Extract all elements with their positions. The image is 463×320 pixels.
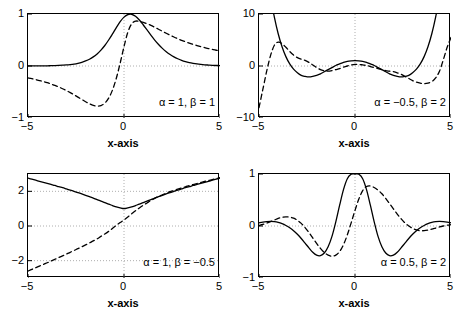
ytick-label: 0 (6, 60, 24, 71)
xtick-label: −5 (252, 281, 265, 292)
xtick-label: 5 (447, 121, 453, 132)
ytick-label: 10 (231, 8, 255, 19)
xtick-label: 5 (216, 281, 222, 292)
ytick-label: 1 (6, 8, 24, 19)
xaxis-title: x-axis (338, 138, 369, 149)
xtick-label: 5 (447, 281, 453, 292)
ytick-label: −2 (6, 255, 24, 266)
parameter-annotation: α = −0.5, β = 2 (330, 97, 446, 108)
panel-bottom-left: 2 0 −2 −5 0 5 x-axis α = 1, β = −0.5 (0, 160, 232, 320)
xaxis-title: x-axis (107, 138, 138, 149)
ytick-label: 0 (231, 60, 255, 71)
panel-bottom-right: 1 0 −1 −5 0 5 x-axis α = 0.5, β = 2 (232, 160, 463, 320)
parameter-annotation: α = 1, β = 1 (119, 97, 215, 108)
parameter-annotation: α = 1, β = −0.5 (99, 257, 215, 268)
xtick-label: −5 (252, 121, 265, 132)
ytick-label: 0 (237, 220, 255, 231)
xtick-label: 0 (120, 121, 126, 132)
xtick-label: 0 (351, 281, 357, 292)
xtick-label: −5 (21, 121, 34, 132)
figure-canvas: 1 0 −1 −5 0 5 x-axis α = 1, β = 1 10 0 −… (0, 0, 463, 320)
series-dashed (259, 186, 451, 256)
xaxis-title: x-axis (107, 298, 138, 309)
panel-top-right: 10 0 −10 −5 0 5 x-axis α = −0.5, β = 2 (232, 0, 463, 160)
ytick-label: 2 (6, 185, 24, 196)
series-solid (28, 14, 220, 66)
xtick-label: 0 (120, 281, 126, 292)
ytick-label: 1 (237, 168, 255, 179)
xtick-label: 0 (351, 121, 357, 132)
xaxis-title: x-axis (338, 298, 369, 309)
xtick-label: 5 (216, 121, 222, 132)
ytick-label: 0 (6, 220, 24, 231)
panel-top-left: 1 0 −1 −5 0 5 x-axis α = 1, β = 1 (0, 0, 232, 160)
series-group (259, 14, 451, 108)
parameter-annotation: α = 0.5, β = 2 (336, 257, 446, 268)
xtick-label: −5 (21, 281, 34, 292)
